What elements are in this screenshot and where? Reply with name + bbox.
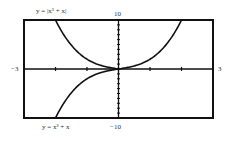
bottom-curve-label: y = x³ + x: [42, 124, 70, 131]
x-max-label: 3: [218, 66, 222, 73]
y-min-label: −10: [110, 124, 121, 131]
x-min-label: −3: [11, 66, 18, 73]
graph-window: [0, 0, 228, 142]
curve-cubic: [56, 69, 119, 118]
top-curve-label: y = |x³ + x|: [36, 8, 66, 15]
y-max-label: 10: [114, 11, 121, 18]
